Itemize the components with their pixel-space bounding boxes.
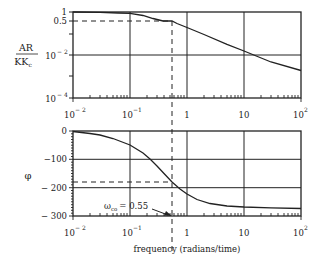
ph-xtick-1e-1-exp: −1 [133, 224, 142, 231]
ph-xtick-1e-2: 10 [64, 228, 75, 238]
mag-xtick-1e2: 10 [293, 110, 304, 120]
ph-ytick-300: − 300 [41, 211, 67, 221]
magnitude-labels: AR KKc 1 0.5 10 − 2 10 − 4 10 − 2 10 −1 … [14, 7, 308, 120]
ph-xtick-1: 1 [184, 228, 189, 238]
ph-ytick-0: 0 [62, 126, 67, 136]
mag-xtick-10: 10 [239, 110, 250, 120]
ph-xtick-1e2: 10 [293, 228, 304, 238]
magnitude-panel [69, 12, 301, 255]
mag-xtick-1e2-exp: 2 [304, 106, 308, 113]
mag-xtick-1: 1 [184, 110, 189, 120]
mag-ytick-1e-4-exp: − 4 [57, 91, 68, 98]
mag-ytick-1e-4: 10 [45, 94, 56, 104]
ph-xtick-1e2-exp: 2 [304, 224, 308, 231]
mag-xtick-1e-1-exp: −1 [133, 106, 142, 113]
ph-xtick-1e-2-exp: − 2 [75, 224, 86, 231]
ph-xtick-10: 10 [239, 228, 250, 238]
mag-ytick-1e-2: 10 [45, 51, 56, 61]
mag-y-label-num: AR [18, 42, 34, 53]
phase-y-label: φ [24, 170, 31, 181]
phase-labels: φ 0 −100 − 200 − 300 ωco= 0.55 10 − 2 10… [24, 126, 308, 254]
ph-xtick-1e-1: 10 [122, 228, 133, 238]
crossover-label: ωco= 0.55 [104, 201, 148, 212]
mag-ytick-1e-2-exp: − 2 [57, 48, 68, 55]
mag-xtick-1e-1: 10 [122, 110, 133, 120]
ph-ytick-100: −100 [44, 154, 67, 164]
mag-ytick-0.5: 0.5 [53, 16, 67, 26]
mag-xtick-1e-2-exp: − 2 [75, 106, 86, 113]
mag-y-label-den: KKc [14, 56, 32, 68]
x-axis-label: frequency (radians/time) [134, 244, 241, 254]
arrowhead-icon [164, 211, 172, 216]
ph-ytick-200: − 200 [41, 183, 67, 193]
mag-xtick-1e-2: 10 [64, 110, 75, 120]
bode-plot: AR KKc 1 0.5 10 − 2 10 − 4 10 − 2 10 −1 … [0, 0, 325, 266]
